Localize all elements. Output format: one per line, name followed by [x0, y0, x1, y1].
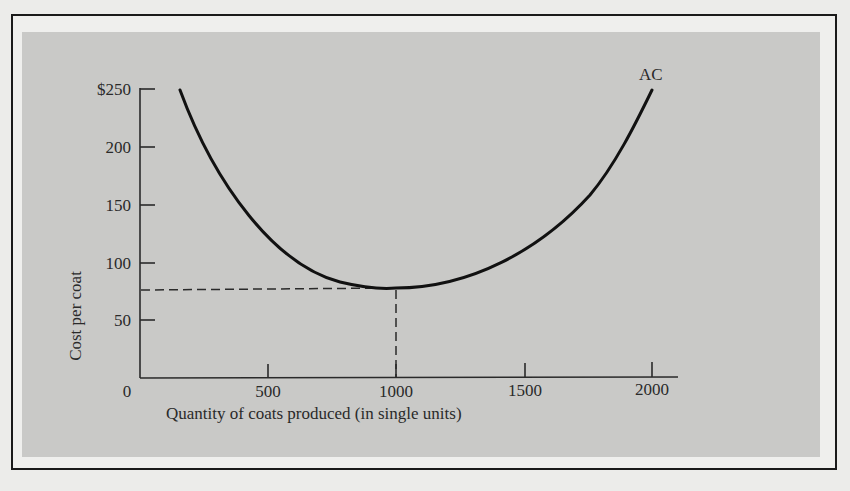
y-tick-label-200: 200 [106, 138, 132, 157]
y-tick-label-50: 50 [114, 311, 131, 330]
y-tick-label-150: 150 [106, 196, 132, 215]
y-axis-title: Cost per coat [66, 271, 85, 361]
x-tick-label-500: 500 [255, 382, 281, 401]
average-cost-curve [180, 90, 652, 288]
x-tick-label-1500: 1500 [508, 381, 542, 400]
ac-curve-label: AC [639, 65, 663, 84]
y-tick-label-100: 100 [106, 254, 132, 273]
cost-chart: $250 200 150 100 50 0 500 1000 1500 2000… [0, 0, 850, 491]
x-axis-title: Quantity of coats produced (in single un… [166, 404, 462, 423]
origin-label: 0 [123, 382, 132, 401]
x-tick-label-1000: 1000 [379, 382, 413, 401]
y-ticks [140, 89, 155, 320]
x-axis [140, 377, 678, 378]
x-ticks [268, 362, 652, 378]
x-tick-label-2000: 2000 [635, 380, 669, 399]
y-tick-label-250: $250 [97, 80, 131, 99]
min-cost-guide-line [141, 288, 396, 290]
